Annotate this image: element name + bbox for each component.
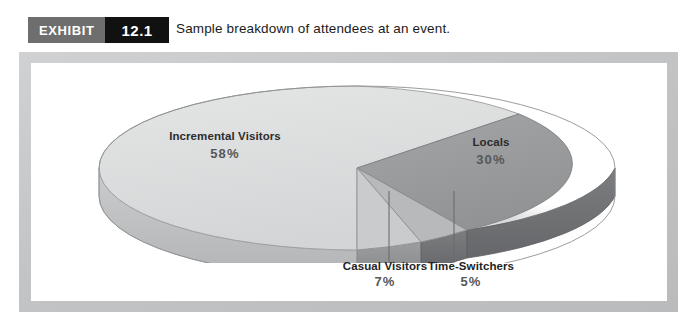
exhibit-number-badge: 12.1 xyxy=(105,17,168,43)
pie-chart-graphic xyxy=(89,73,619,263)
exhibit-header: EXHIBIT 12.1 xyxy=(28,17,169,43)
figure-panel: Incremental Visitors 58% Locals 30% Casu… xyxy=(31,63,667,301)
callout-label-percent: 5% xyxy=(405,274,537,289)
callout-label-name: Time-Switchers xyxy=(405,260,537,272)
figure-frame: Incremental Visitors 58% Locals 30% Casu… xyxy=(19,52,678,312)
callout-label-time-switchers: Time-Switchers 5% xyxy=(405,260,537,289)
pie-chart: Incremental Visitors 58% Locals 30% Casu… xyxy=(31,63,667,301)
exhibit-tag-label: EXHIBIT xyxy=(28,17,105,43)
exhibit-caption: Sample breakdown of attendees at an even… xyxy=(176,21,450,36)
